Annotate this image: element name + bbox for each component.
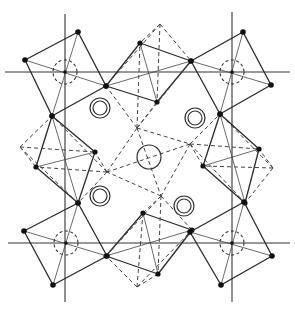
vertex-atom [241,199,247,205]
vertex-atom [187,229,193,235]
vertex-atom [33,164,38,169]
vertex-atom [218,282,224,288]
octahedron-apex-edge [20,147,36,167]
octahedron-apex-edge [106,86,137,128]
octahedron-apex-edge [106,256,137,287]
octahedron-edge [203,166,245,203]
octahedron-edge [106,43,140,86]
octahedron-apex-edge [20,147,95,152]
octahedron-diagonal [203,149,259,166]
vertex-atom [188,58,194,64]
vertex-atom [21,228,27,234]
central-octahedron-edge [107,128,137,172]
octahedron-edge [25,32,78,60]
octahedron-apex-edge [137,102,157,128]
octahedron-edge [220,85,271,114]
center-circle-site [137,145,161,169]
octahedron-edge [244,202,272,256]
octahedron-apex-edge [190,144,203,166]
center-atom [230,241,234,245]
octahedron-edge [106,256,158,274]
octahedron-edge [243,32,271,85]
octahedron-edge [78,32,106,86]
octahedron-apex-edge [190,144,259,149]
octahedron-edge [221,256,272,285]
vertex-atom [268,82,274,88]
octahedron-apex-edge [203,166,273,168]
central-octahedron-diagonal [107,144,190,172]
octahedron-diagonal [106,61,191,86]
octahedron-edge [190,202,244,232]
octahedron-apex-edge [137,213,143,287]
vertex-atom [240,29,246,35]
central-octahedron-edge [107,172,161,196]
octahedron-edge [53,256,107,285]
vertex-atom [200,163,205,168]
crystal-structure-diagram [0,0,295,309]
double-circle-site [188,111,202,125]
vertex-atom [92,149,97,154]
vertex-atom [154,99,159,104]
vertex-atom [140,210,145,215]
octahedron-edge [25,60,52,116]
center-atom [230,70,234,74]
central-octahedron-edge [137,128,190,144]
octahedron-edge [245,149,259,203]
center-atom [63,70,67,74]
octahedron-edge [158,230,192,274]
octahedron-edge [220,114,259,149]
octahedron-apex-edge [140,24,160,43]
octahedron-apex-edge [158,196,161,274]
vertex-atom [104,253,110,259]
double-circle-site [93,101,107,115]
octahedron-edge [78,203,107,256]
octahedron-edge [24,231,53,285]
octahedron-edge [106,86,157,102]
central-octahedron-diagonal [137,128,161,196]
octahedron-apex-edge [157,24,160,102]
central-octahedron-edge [161,144,190,196]
octahedron-apex-edge [137,61,191,128]
vertex-atom [103,83,109,89]
vertex-atom [256,146,261,151]
vertex-atom [49,113,55,119]
octahedral-framework-drawing [0,0,295,309]
octahedron-apex-edge [137,43,140,128]
vertex-atom [269,253,275,259]
vertex-atom [137,40,142,45]
double-circle-site [177,199,191,213]
octahedron-apex-edge [143,196,161,213]
octahedron-apex-edge [259,149,273,168]
vertex-atom [75,200,81,206]
octahedron-apex-edge [36,167,107,172]
vertex-atom [217,111,223,117]
vertex-atom [75,29,81,35]
octahedron-edge [191,61,220,114]
octahedron-edge [36,116,52,167]
octahedron-edge [52,116,95,152]
double-circle-site [93,189,107,203]
vertex-atom [22,57,28,63]
center-atom [64,241,68,245]
octahedron-apex-edge [78,172,107,203]
vertex-atom [50,282,56,288]
octahedron-edge [191,32,243,61]
vertex-atom [155,271,160,276]
octahedron-edge [24,203,78,231]
